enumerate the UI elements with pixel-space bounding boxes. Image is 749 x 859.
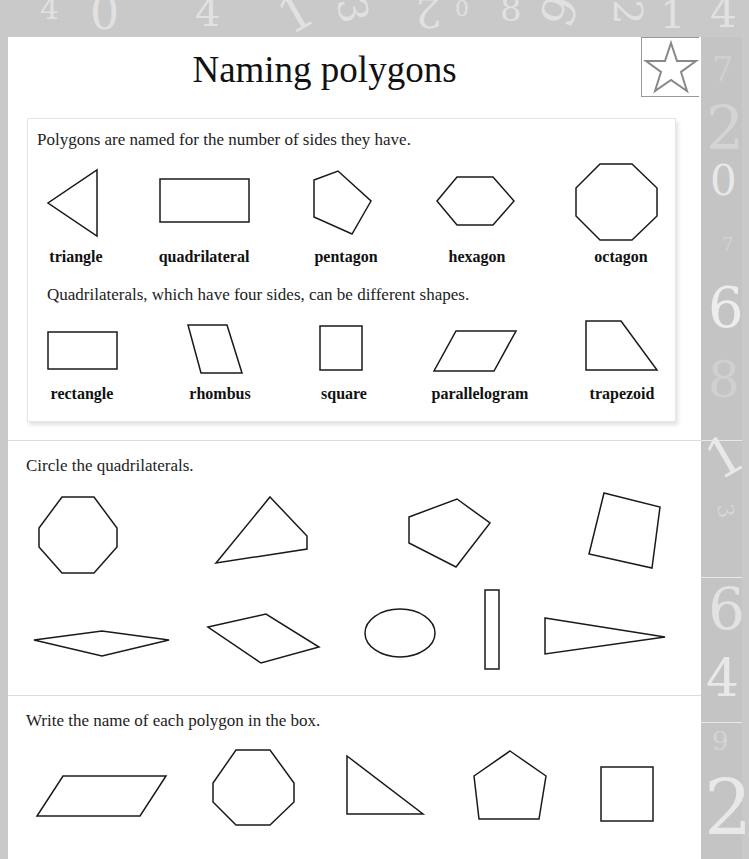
triangle-shape: [545, 618, 665, 654]
parallelogram-shape: [37, 776, 166, 816]
octagon-shape: [576, 164, 657, 240]
parallelogram-shape: [434, 331, 516, 371]
pentagon-shape: [314, 171, 371, 234]
trapezoid-shape: [586, 321, 657, 370]
rhombus-shape: [188, 325, 242, 373]
rectangle-shape: [601, 767, 653, 821]
pentagon-shape: [474, 751, 546, 819]
hexagon-shape: [437, 177, 514, 225]
triangle-shape: [48, 170, 97, 236]
square-shape: [320, 326, 362, 370]
octagon-shape: [213, 750, 294, 825]
rectangle-shape: [48, 332, 117, 369]
pentagon-shape: [409, 499, 490, 567]
rhombus-shape: [34, 631, 169, 656]
triangle-shape: [347, 756, 423, 814]
quadrilateral-shape: [589, 493, 660, 568]
quadrilateral-shape: [208, 614, 319, 663]
quadrilateral-shape: [216, 497, 307, 563]
quadrilateral-shape: [160, 179, 249, 222]
rectangle-shape: [485, 590, 499, 669]
circle-shape: [365, 609, 435, 657]
octagon-shape: [39, 497, 117, 573]
